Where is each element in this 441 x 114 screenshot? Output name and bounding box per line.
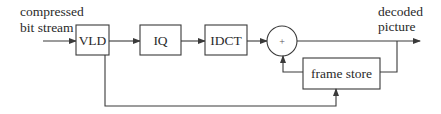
output-label-line2: picture (378, 19, 415, 34)
frame-store-block: frame store (303, 58, 380, 89)
adder-node: + (267, 26, 297, 56)
idct-block: IDCT (205, 25, 247, 55)
vld-to-frame-store-arrow (105, 55, 336, 106)
input-label-line2: bit stream (20, 20, 74, 35)
vld-block: VLD (76, 25, 109, 55)
input-label-line1: compressed (20, 4, 84, 19)
vld-label: VLD (79, 33, 107, 48)
iq-label: IQ (153, 33, 167, 48)
output-to-frame-store-wire (380, 41, 397, 72)
frame-store-label: frame store (311, 66, 372, 81)
plus-icon: + (279, 36, 285, 47)
frame-store-to-adder-arrow (283, 56, 303, 72)
decoder-block-diagram: compressed bit stream decoded picture VL… (0, 0, 441, 114)
output-label-line1: decoded (378, 4, 423, 19)
idct-label: IDCT (210, 33, 242, 48)
iq-block: IQ (140, 25, 181, 55)
